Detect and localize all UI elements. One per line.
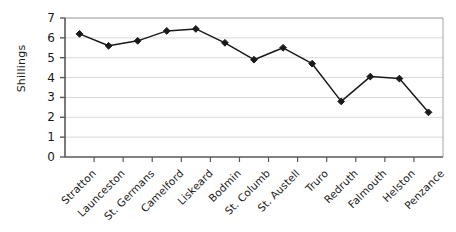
data-point-marker: [105, 42, 112, 49]
data-point-marker: [134, 37, 141, 44]
data-point-marker: [163, 28, 170, 35]
data-point-marker: [280, 44, 287, 51]
line-chart: Shillings 01234567 StrattonLauncestonSt.…: [0, 0, 456, 232]
data-point-marker: [76, 30, 83, 37]
data-line: [80, 29, 429, 112]
data-point-marker: [222, 39, 229, 46]
data-point-marker: [192, 26, 199, 33]
